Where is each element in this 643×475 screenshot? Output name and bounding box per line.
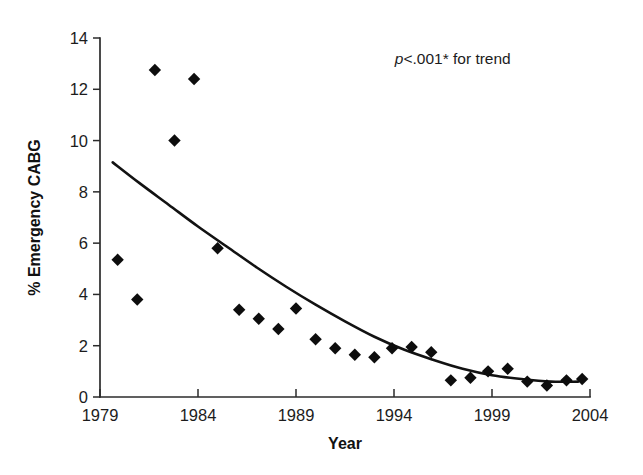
data-point bbox=[560, 374, 572, 386]
y-tick-label: 4 bbox=[79, 285, 88, 303]
x-tick-label: 1979 bbox=[82, 406, 119, 424]
x-tick-label: 1984 bbox=[180, 406, 217, 424]
y-tick-label: 6 bbox=[79, 234, 88, 252]
data-point bbox=[233, 304, 245, 316]
data-point bbox=[309, 333, 321, 345]
y-tick-label: 2 bbox=[79, 337, 88, 355]
x-tick-label: 1994 bbox=[376, 406, 413, 424]
p-value-symbol: p bbox=[394, 50, 404, 67]
data-point bbox=[464, 372, 476, 384]
data-point bbox=[445, 374, 457, 386]
p-value-annotation: p<.001* for trend bbox=[394, 50, 511, 67]
data-point bbox=[368, 351, 380, 363]
data-point bbox=[329, 342, 341, 354]
x-axis-ticks: 197919841989199419992004 bbox=[82, 389, 609, 424]
y-tick-label: 8 bbox=[79, 183, 88, 201]
data-point bbox=[111, 254, 123, 266]
y-axis-title: % Emergency CABG bbox=[26, 139, 43, 296]
data-point bbox=[521, 375, 533, 387]
data-point bbox=[272, 323, 284, 335]
data-point bbox=[168, 134, 180, 146]
data-point bbox=[349, 348, 361, 360]
data-point bbox=[149, 64, 161, 76]
x-axis-title: Year bbox=[328, 435, 362, 452]
x-tick-label: 2004 bbox=[572, 406, 609, 424]
trend-line bbox=[113, 162, 579, 381]
data-point bbox=[290, 302, 302, 314]
data-point bbox=[576, 373, 588, 385]
y-tick-label: 0 bbox=[79, 388, 88, 406]
data-points bbox=[111, 64, 588, 392]
data-point bbox=[501, 363, 513, 375]
x-tick-label: 1999 bbox=[474, 406, 511, 424]
figure-container: 02468101214 197919841989199419992004 % E… bbox=[0, 0, 643, 475]
data-point bbox=[253, 313, 265, 325]
data-point bbox=[188, 73, 200, 85]
y-axis-ticks: 02468101214 bbox=[70, 29, 100, 406]
data-point bbox=[131, 293, 143, 305]
y-tick-label: 10 bbox=[70, 132, 88, 150]
y-tick-label: 14 bbox=[70, 29, 88, 47]
y-tick-label: 12 bbox=[70, 80, 88, 98]
scatter-chart: 02468101214 197919841989199419992004 % E… bbox=[0, 0, 643, 475]
x-tick-label: 1989 bbox=[278, 406, 315, 424]
p-value-text: <.001* for trend bbox=[403, 50, 510, 67]
